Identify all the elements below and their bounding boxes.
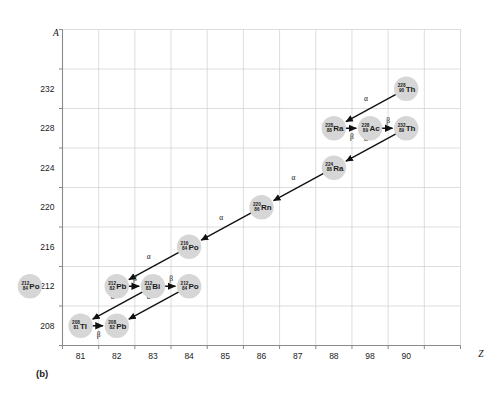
decay-label-alpha: α <box>147 252 151 261</box>
element-symbol: Tl <box>80 322 87 331</box>
nuclide-node: 21283Bi <box>141 274 165 298</box>
atomic-number: 84 <box>182 246 188 251</box>
x-tick-label: 88 <box>329 351 339 361</box>
decay-chain-chart: 2322282242202162122088182838485868788989… <box>0 0 499 395</box>
y-tick-label: 208 <box>40 321 54 331</box>
atomic-number: 88 <box>327 128 333 133</box>
nuclide-node: 20881Tl <box>68 314 92 338</box>
element-symbol: Ac <box>369 124 380 133</box>
atomic-number: 89 <box>363 128 369 133</box>
x-tick-label: 83 <box>148 351 158 361</box>
nuclide-node: 22889Ac <box>358 116 382 140</box>
figure-caption: (b) <box>36 368 48 379</box>
element-symbol: Ra <box>333 164 344 173</box>
decay-label-beta: β <box>133 274 137 283</box>
element-symbol: Pb <box>116 322 126 331</box>
x-tick-label: 82 <box>112 351 122 361</box>
grid-lines <box>63 30 461 346</box>
element-symbol: Bi <box>152 282 160 291</box>
decay-arrows <box>92 94 396 325</box>
x-tick-label: 86 <box>257 351 267 361</box>
y-tick-label: 220 <box>40 202 54 212</box>
atomic-number: 82 <box>110 325 116 330</box>
element-symbol: Po <box>189 243 199 252</box>
x-tick-label: 85 <box>221 351 231 361</box>
atomic-number: 81 <box>73 325 79 330</box>
element-symbol: Pb <box>116 282 126 291</box>
y-tick-label: 212 <box>40 281 54 291</box>
decay-label-alpha: α <box>364 94 368 103</box>
decay-label-beta: β <box>386 116 390 125</box>
nuclide-node: 23289Th <box>394 116 418 140</box>
y-tick-label: 224 <box>40 163 54 173</box>
x-tick-label: 98 <box>365 351 375 361</box>
decay-label-beta: β <box>97 330 101 339</box>
y-tick-label: 216 <box>40 242 54 252</box>
element-symbol: Th <box>406 85 416 94</box>
tick-labels: 2322282242202162122088182838485868788989… <box>40 84 411 361</box>
x-tick-label: 81 <box>76 351 86 361</box>
x-axis-title: Z <box>478 349 484 359</box>
x-tick-label: 90 <box>401 351 411 361</box>
x-tick-label: 87 <box>293 351 303 361</box>
element-symbol: Rn <box>261 203 272 212</box>
decay-label-beta: β <box>169 274 173 283</box>
nuclide-node: 21684Po <box>177 235 201 259</box>
atomic-number: 86 <box>254 207 260 212</box>
nuclide-nodes: 22890Th22888Ra22889Ac23289Th22488Ra22086… <box>18 77 419 338</box>
nuclide-node: 21284Po <box>18 274 42 298</box>
decay-label-alpha: α <box>292 173 296 182</box>
axis-lines <box>59 30 461 350</box>
element-symbol: Ra <box>333 124 344 133</box>
x-tick-label: 84 <box>184 351 194 361</box>
decay-label-alpha: α <box>219 213 223 222</box>
atomic-number: 90 <box>399 88 405 93</box>
atomic-number: 84 <box>182 286 188 291</box>
nuclide-node: 22488Ra <box>322 156 346 180</box>
nuclide-node: 21282Pb <box>105 274 129 298</box>
y-axis-title: A <box>52 28 59 38</box>
atomic-number: 83 <box>146 286 152 291</box>
element-symbol: Po <box>189 282 199 291</box>
nuclide-node: 22890Th <box>394 77 418 101</box>
nuclide-node: 22086Rn <box>249 195 273 219</box>
y-tick-label: 232 <box>40 84 54 94</box>
nuclide-node: 22888Ra <box>322 116 346 140</box>
nuclide-node: 20882Pb <box>105 314 129 338</box>
decay-label-beta: β <box>350 132 354 141</box>
atomic-number: 88 <box>327 167 333 172</box>
nuclide-node: 21284Po <box>177 274 201 298</box>
decay-chain-figure: 2322282242202162122088182838485868788989… <box>0 0 499 395</box>
atomic-number: 89 <box>399 128 405 133</box>
element-symbol: Th <box>406 124 416 133</box>
y-tick-label: 228 <box>40 123 54 133</box>
atomic-number: 82 <box>110 286 116 291</box>
atomic-number: 84 <box>23 286 29 291</box>
element-symbol: Po <box>29 282 39 291</box>
